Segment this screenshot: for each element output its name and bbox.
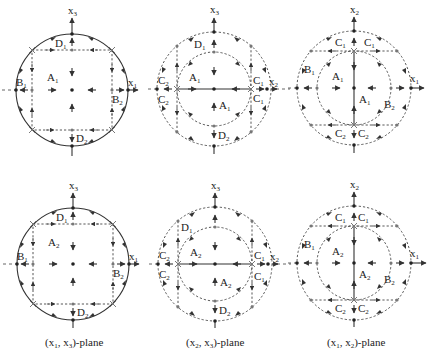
- region-label-D2: D2: [218, 129, 230, 143]
- svg-text:C2: C2: [159, 249, 170, 263]
- svg-text:A2: A2: [220, 276, 232, 290]
- svg-text:C2: C2: [358, 302, 369, 316]
- axis-label-vertical: x3: [68, 4, 78, 18]
- svg-text:A2: A2: [190, 246, 202, 260]
- svg-text:D1: D1: [56, 211, 68, 225]
- svg-text:x3: x3: [69, 179, 79, 193]
- region-label-C2-upper: C2: [158, 74, 169, 88]
- caption-x1x3-plane: (x1, x3)-plane: [45, 336, 103, 350]
- svg-text:x1: x1: [129, 250, 139, 264]
- svg-text:x3: x3: [211, 179, 221, 193]
- region-label-C2-lower: C2: [158, 93, 169, 107]
- region-label-D2: D2: [76, 132, 88, 146]
- region-label-D1: D1: [55, 37, 67, 51]
- svg-text:C1: C1: [254, 249, 265, 263]
- region-label-D1: D1: [194, 38, 206, 52]
- svg-text:B2: B2: [113, 267, 124, 281]
- region-label-A1-upper: A1: [189, 71, 201, 85]
- region-label-A1-lower: A1: [219, 99, 231, 113]
- caption-x1x2-plane: (x1, x2)-plane: [327, 336, 385, 350]
- svg-text:D2: D2: [77, 306, 89, 320]
- svg-text:x1: x1: [410, 247, 420, 261]
- region-label-B1: B1: [16, 76, 27, 90]
- svg-text:C1: C1: [364, 36, 375, 50]
- panel-x2x3-bottom: x3 x2 A2 A2 C1 C1 C2 C2 D1 D2: [149, 179, 291, 328]
- svg-text:B1: B1: [304, 238, 315, 252]
- svg-text:C2: C2: [335, 302, 346, 316]
- svg-text:C2: C2: [159, 268, 170, 282]
- svg-text:D2: D2: [219, 304, 231, 318]
- svg-text:C1: C1: [335, 211, 346, 225]
- region-label-A1: A1: [47, 71, 59, 85]
- svg-text:x2: x2: [270, 250, 280, 264]
- svg-text:x1: x1: [410, 72, 420, 86]
- svg-text:C1: C1: [254, 270, 265, 284]
- region-label-B2: B2: [112, 93, 123, 107]
- region-label-C1-upper: C1: [253, 74, 264, 88]
- panel-x2x3-top: x3 x2 A1 A1 C1 C1 C2 C2 D1 D2: [148, 3, 290, 154]
- svg-text:x2: x2: [350, 178, 360, 192]
- panel-x1x3-top: x3 x1 A1 B1 B2 D1 D2: [2, 4, 138, 156]
- svg-text:B1: B1: [17, 250, 28, 264]
- panel-x1x2-top: x2 x1 A1 A1 B1 B2 C1 C1 C2 C2: [288, 3, 424, 153]
- svg-text:A2: A2: [359, 268, 371, 282]
- region-label-C1-lower: C1: [253, 92, 264, 106]
- svg-text:x3: x3: [210, 3, 220, 17]
- caption-x2x3-plane: (x2, x3)-plane: [186, 336, 244, 350]
- phase-portrait-figure: x3 x1 A1 B1 B2 D1 D2: [0, 0, 434, 354]
- svg-text:C2: C2: [358, 127, 369, 141]
- svg-text:C1: C1: [358, 211, 369, 225]
- svg-text:C2: C2: [335, 127, 346, 141]
- svg-text:x2: x2: [269, 75, 279, 89]
- svg-text:A2: A2: [48, 236, 60, 250]
- svg-text:B1: B1: [304, 63, 315, 77]
- axis-label-horizontal: x1: [128, 76, 138, 90]
- svg-text:B2: B2: [384, 273, 395, 287]
- svg-text:D1: D1: [181, 221, 193, 235]
- svg-text:x2: x2: [350, 3, 360, 17]
- svg-text:A1: A1: [332, 70, 344, 84]
- panel-x1x2-bottom: x2 x1 A2 A2 B1 B2 C1 C1 C2 C2: [288, 178, 426, 327]
- svg-text:B2: B2: [384, 98, 395, 112]
- svg-text:C1: C1: [335, 36, 346, 50]
- svg-text:A2: A2: [332, 245, 344, 259]
- svg-text:A1: A1: [359, 93, 371, 107]
- panel-x1x3-bottom: x3 x1 A2 B1 B2 D1 D2: [3, 179, 139, 328]
